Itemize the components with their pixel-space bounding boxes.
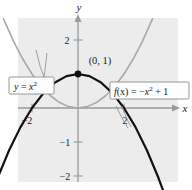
x-tick-label-minus2: −2 bbox=[22, 115, 33, 126]
right-label-arg: (x) bbox=[117, 86, 129, 98]
right-label-eq: = − bbox=[128, 86, 145, 97]
y-tick-label-2: 2 bbox=[65, 35, 70, 46]
label-box-f-of-x: f(x) = −x2 + 1 bbox=[110, 82, 189, 99]
right-label-text: f(x) = −x2 + 1 bbox=[114, 85, 168, 98]
vertex-point-label: (0, 1) bbox=[89, 55, 112, 67]
right-label-tail: + 1 bbox=[153, 86, 169, 97]
y-axis-label: y bbox=[76, 1, 82, 13]
y-tick-label-minus1: −1 bbox=[60, 137, 71, 148]
plot-area-background bbox=[18, 18, 178, 182]
x-axis-label: x bbox=[182, 102, 188, 114]
figure-container: −2 2 2 −1 −2 x y (0, 1) y = x2 f(x) = −x… bbox=[0, 0, 192, 190]
graph-canvas: −2 2 2 −1 −2 x y (0, 1) y = x2 f(x) = −x… bbox=[0, 0, 192, 190]
left-label-eq: = bbox=[18, 81, 29, 92]
vertex-point-marker bbox=[75, 71, 82, 78]
label-box-y-equals-x-squared: y = x2 bbox=[9, 77, 54, 94]
y-tick-label-minus2: −2 bbox=[60, 171, 71, 182]
left-label-exponent: 2 bbox=[34, 80, 38, 88]
